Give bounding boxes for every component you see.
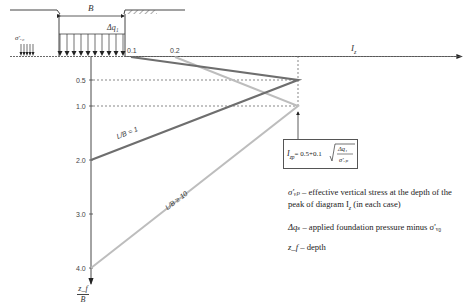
overburden-label: σ'ᵥ₀: [15, 35, 24, 42]
pressure-load: [58, 34, 126, 56]
y-tick-1.0: 1.0: [76, 103, 86, 110]
y-tick-2.0: 2.0: [76, 157, 86, 164]
x-axis-label: Iz: [351, 44, 356, 55]
width-label: B: [88, 4, 94, 13]
ground-surface: [10, 10, 185, 14]
formula-numerator: Δq₁: [338, 145, 347, 152]
x-tick-0.1: 0.1: [127, 47, 137, 54]
legend-item-depth: z_f – depth: [288, 241, 466, 253]
y-tick-0.5: 0.5: [76, 77, 86, 84]
footing-outline: [59, 14, 125, 56]
formula-box: Izp= 0.5+0.1 Δq₁ σ'ᵥₚ: [283, 139, 358, 169]
y-tick-3.0: 3.0: [76, 211, 86, 218]
legend-item-sigma: σ'ᵥₚ – effective vertical stress at the …: [288, 186, 466, 214]
formula-denominator: σ'ᵥₚ: [339, 156, 348, 164]
y-axis-label: z_f B: [77, 285, 89, 304]
curve-lb-10: [91, 57, 298, 268]
y-tick-4.0: 4.0: [76, 265, 86, 272]
x-tick-0.2: 0.2: [170, 47, 180, 54]
curve-lb-1: [91, 57, 298, 160]
overburden-load: [20, 44, 35, 56]
legend-item-delta-q: Δqₛ – applied foundation pressure minus …: [288, 221, 466, 233]
pressure-label: Δq₁: [107, 24, 118, 32]
diagram-canvas: [0, 0, 467, 308]
guide-lines: [93, 56, 298, 106]
